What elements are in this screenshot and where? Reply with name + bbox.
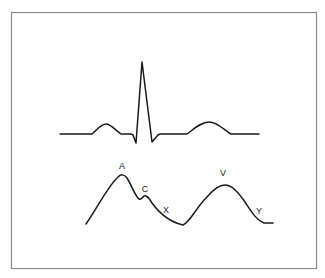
ecg-jvp-diagram: A C X V Y <box>0 0 325 278</box>
figure-frame <box>12 13 317 269</box>
ecg-trace <box>60 62 259 143</box>
label-c-wave: C <box>142 184 149 194</box>
label-a-wave: A <box>119 161 125 171</box>
label-y-descent: Y <box>256 206 262 216</box>
label-x-descent: X <box>163 205 169 215</box>
label-v-wave: V <box>220 168 226 178</box>
jvp-waveform <box>86 175 273 225</box>
